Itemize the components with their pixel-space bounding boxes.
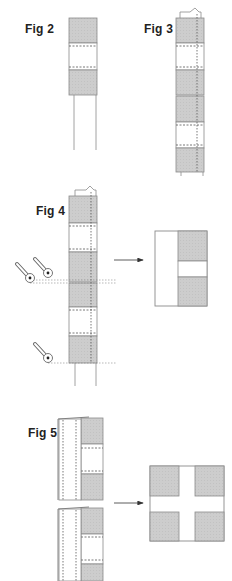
- fig3-strip: [176, 8, 204, 176]
- fig4-strip: [30, 186, 116, 386]
- pin-icon: [35, 344, 53, 363]
- pin-icon: [35, 259, 53, 278]
- diagram-canvas: [0, 0, 232, 581]
- fig5-result-block: [150, 466, 224, 541]
- fig4-result-block: [155, 231, 207, 306]
- fig2-strip: [69, 18, 97, 150]
- fig5-strip-top: [58, 417, 103, 500]
- fig5-strip-bottom: [58, 507, 103, 581]
- pin-icon: [17, 264, 35, 283]
